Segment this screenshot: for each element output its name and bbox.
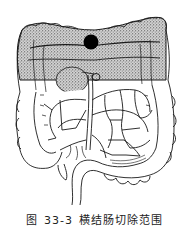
sigmoid-colon	[72, 155, 150, 205]
caption-title: 横结肠切除范围	[79, 214, 163, 226]
resection-shaded-region	[17, 17, 166, 93]
mesenteric-vessels	[40, 72, 152, 160]
caption-label: 图	[26, 214, 38, 226]
tumor-marker-icon	[84, 35, 99, 50]
colon-resection-figure: 图33-3横结肠切除范围	[0, 0, 189, 226]
colon-illustration	[0, 0, 189, 210]
figure-caption: 图33-3横结肠切除范围	[0, 214, 189, 226]
caption-number: 33-3	[44, 214, 73, 226]
